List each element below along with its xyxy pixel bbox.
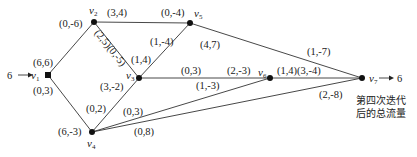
edge-v1-v2 [48,22,94,75]
node-v5 [187,20,193,26]
edge-label-v4-v7-reverse: (2,-8) [319,89,343,101]
edge-label-v3-v6-forward: (0,3) [181,65,202,77]
edge-label-v1-v2-reverse: (0,-6) [59,18,83,30]
edge-label-v3-v5-forward: (1,4) [131,54,152,66]
edge-label-v3-v5-reverse: (1,-4) [150,36,174,48]
node-v2 [91,19,97,25]
edge-label-v4-v6-forward: (0,3) [123,106,144,118]
node-label-v6: v6 [258,66,267,80]
edge-label-v3-v4-reverse: (0,2) [86,103,107,115]
edge-label-v1-v4-reverse: (6,-3) [58,126,82,138]
edge-label-v5-v7-forward: (4,7) [200,39,221,51]
node-v6 [267,75,273,81]
edge-label-v1-v4-forward: (0,3) [33,85,54,97]
node-v3 [136,75,142,81]
node-label-v5: v5 [194,7,203,21]
source-flow-value: 6 [7,70,12,81]
edge-label-v3-v6-reverse: (2,-3) [227,65,251,77]
node-label-v7: v7 [369,72,378,86]
edge-label-v5-v7-reverse: (1,-7) [307,46,331,58]
node-label-v4: v4 [87,137,96,151]
node-label-v2: v2 [89,4,98,18]
edge-label-v3-v4-forward: (3,-2) [100,81,124,93]
caption-line-1: 第四次迭代 [356,94,406,106]
flow-network-diagram: 6 6 v1 v2 v3 v4 v5 v6 v7 (6,6) (0,-6) (0… [0,0,417,157]
edge-v5-v7 [190,23,362,78]
node-v7 [359,75,365,81]
node-v1 [45,72,51,78]
edge-label-v4-v7-forward: (0,8) [134,126,155,138]
edge-v2-v5 [94,22,190,23]
sink-arrow-icon [389,76,394,81]
edge-label-v4-v6-reverse: (1,-3) [196,80,220,92]
edge-label-v1-v2-forward: (6,6) [33,57,54,69]
edge-label-v6-v7: (1,4)(3,-4) [277,65,321,77]
node-label-v1: v1 [31,69,40,83]
edge-label-v2-v5-reverse: (0,-4) [161,7,185,19]
sink-flow-value: 6 [397,73,402,84]
node-v4 [89,129,95,135]
caption-line-2: 后的总流量 [356,107,406,119]
edge-label-v2-v3: (2,5)(0,-5) [92,27,129,69]
edge-label-v2-v5-forward: (3,4) [107,7,128,19]
